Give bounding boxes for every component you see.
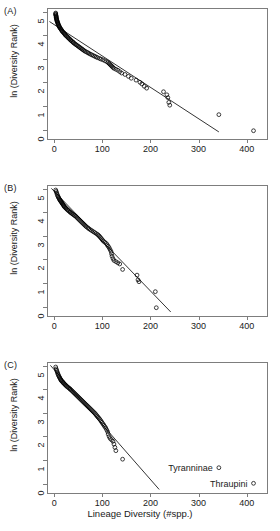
data-point [134,78,138,82]
x-tick-label: 0 [39,144,69,154]
x-tick-mark [150,139,151,143]
x-tick-label: 400 [232,498,262,508]
data-point [121,457,125,461]
regression-line-a [49,22,218,132]
x-tick-label: 300 [184,321,214,331]
x-tick-label: 0 [39,498,69,508]
panel-a-svg [48,9,267,139]
x-tick-label: 400 [232,321,262,331]
x-tick-mark [150,493,151,497]
data-point [129,76,133,80]
y-tick-label: 5 [36,11,46,31]
panel-c: (C) ln (Diversity Rank) TyranninaeThraup… [0,354,280,531]
x-tick-label: 200 [135,144,165,154]
regression-line-b [51,188,170,312]
y-tick-label: 3 [36,412,46,432]
y-tick-label: 5 [36,365,46,385]
x-tick-label: 0 [39,321,69,331]
panel-b: (B) ln (Diversity Rank) 0123450100200300… [0,177,280,354]
data-point [153,290,157,294]
y-tick-label: 3 [36,58,46,78]
x-tick-label: 100 [87,498,117,508]
x-tick-mark [247,493,248,497]
x-tick-mark [199,139,200,143]
y-tick-label: 2 [36,258,46,278]
x-tick-label: 100 [87,144,117,154]
x-tick-mark [102,493,103,497]
data-point [217,466,221,470]
y-tick-label: 4 [36,211,46,231]
x-tick-mark [102,316,103,320]
x-tick-mark [54,316,55,320]
y-tick-label: 4 [36,34,46,54]
x-tick-mark [199,493,200,497]
panel-b-svg [48,186,267,316]
panel-c-plot-area: TyranninaeThraupini [47,362,268,494]
data-point [110,254,114,258]
annotation-label-1: Thraupini [210,479,248,489]
y-tick-label: 1 [36,105,46,125]
x-tick-mark [54,139,55,143]
y-tick-label: 3 [36,235,46,255]
x-tick-mark [247,139,248,143]
x-tick-label: 300 [184,144,214,154]
data-point [252,481,256,485]
x-tick-mark [102,139,103,143]
x-axis-title: Lineage Diversity (#spp.) [0,508,280,519]
x-tick-mark [247,316,248,320]
x-tick-label: 200 [135,498,165,508]
y-tick-label: 4 [36,388,46,408]
x-tick-mark [54,493,55,497]
panel-b-plot-area [47,185,268,317]
panel-c-svg: TyranninaeThraupini [48,363,267,493]
data-point [162,90,166,94]
data-point [135,273,139,277]
x-tick-label: 100 [87,321,117,331]
x-tick-label: 200 [135,321,165,331]
panel-c-ylabel: ln (Diversity Rank) [9,355,19,475]
annotation-label-0: Tyranninae [168,463,213,473]
y-tick-label: 1 [36,282,46,302]
panel-a-plot-area [47,8,268,140]
x-tick-label: 300 [184,498,214,508]
data-point [154,306,158,310]
y-tick-label: 1 [36,459,46,479]
data-point [106,432,110,436]
x-tick-mark [150,316,151,320]
x-tick-mark [199,316,200,320]
panel-a-ylabel: ln (Diversity Rank) [9,1,19,121]
y-tick-label: 2 [36,81,46,101]
panel-a: (A) ln (Diversity Rank) 0123450100200300… [0,0,280,177]
y-tick-label: 5 [36,188,46,208]
figure-panel-group: (A) ln (Diversity Rank) 0123450100200300… [0,0,280,531]
y-tick-label: 2 [36,435,46,455]
data-point [252,129,256,133]
panel-b-ylabel: ln (Diversity Rank) [9,178,19,298]
x-tick-label: 400 [232,144,262,154]
data-point [121,268,125,272]
data-point [217,113,221,117]
